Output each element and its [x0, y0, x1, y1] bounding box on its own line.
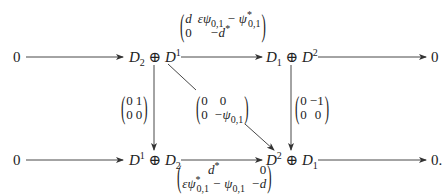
diagonal-matrix: ( 0 0 0 −ψ0,1 ) — [196, 94, 249, 122]
left-paren: ( — [177, 163, 181, 191]
top-target-node: D1 ⊕ D2 — [266, 49, 318, 65]
node-superscript: 1 — [140, 150, 145, 161]
node-symbol: D — [266, 49, 277, 65]
matrix-cell: 0 — [126, 94, 133, 108]
node-subscript: 2 — [140, 57, 145, 68]
bottom-source-node: D1 ⊕ D2 — [129, 152, 181, 168]
right-paren: ) — [143, 94, 147, 122]
matrix-cell: 0 — [201, 94, 208, 108]
node-symbol: D — [165, 152, 176, 168]
matrix-cell: 0 — [126, 108, 133, 122]
node-symbol: D — [302, 152, 313, 168]
node-symbol: D — [129, 49, 140, 65]
matrix-cell: −d* — [198, 26, 261, 40]
node-symbol: D — [165, 49, 176, 65]
top-source-node: D2 ⊕ D1 — [129, 49, 181, 65]
node-subscript: 1 — [313, 160, 318, 171]
matrix-cell: 1 — [136, 94, 143, 108]
node-subscript: 1 — [277, 57, 282, 68]
matrix-cell: 0 — [310, 108, 324, 122]
bottom-left-zero: 0 — [13, 152, 21, 168]
right-vertical-matrix: ( 0 −1 0 0 ) — [295, 94, 329, 122]
matrix-cell: 0 — [300, 94, 307, 108]
bottom-target-node: D2 ⊕ D1 — [266, 152, 318, 168]
right-paren: ) — [325, 94, 329, 122]
top-map-matrix: ( d εψ0,1 − ψ*0,1 0 −d* ) — [180, 12, 266, 40]
matrix-cell: 0 — [251, 163, 266, 177]
right-paren: ) — [261, 12, 265, 40]
matrix-cell: 0 — [201, 108, 208, 122]
matrix-cell: 0 — [214, 94, 243, 108]
left-paren: ( — [121, 94, 125, 122]
node-symbol: D — [302, 49, 313, 65]
matrix-cell: −d — [251, 177, 266, 191]
direct-sum-symbol: ⊕ — [149, 152, 162, 168]
left-paren: ( — [196, 94, 200, 122]
node-superscript: 2 — [277, 150, 282, 161]
matrix-cell: 0 — [300, 108, 307, 122]
matrix-cell: −1 — [310, 94, 324, 108]
matrix-cell: 0 — [185, 26, 192, 40]
direct-sum-symbol: ⊕ — [286, 49, 299, 65]
direct-sum-symbol: ⊕ — [149, 49, 162, 65]
top-left-zero: 0 — [13, 49, 21, 65]
matrix-cell: 0 — [136, 108, 143, 122]
left-vertical-matrix: ( 0 1 0 0 ) — [121, 94, 148, 122]
bottom-map-matrix: ( d* 0 εψ*0,1 − ψ0,1 −d ) — [177, 163, 272, 191]
matrix-cell: −ψ0,1 — [214, 108, 243, 122]
arrow-diagonal-lower — [245, 124, 274, 150]
node-superscript: 1 — [176, 47, 181, 58]
bottom-right-zero: 0. — [431, 152, 442, 168]
right-paren: ) — [244, 94, 248, 122]
direct-sum-symbol: ⊕ — [286, 152, 299, 168]
node-superscript: 2 — [313, 47, 318, 58]
matrix-cell: d* — [182, 163, 245, 177]
left-paren: ( — [180, 12, 184, 40]
matrix-cell: d — [185, 12, 192, 26]
left-paren: ( — [295, 94, 299, 122]
top-right-zero: 0 — [431, 49, 439, 65]
right-paren: ) — [267, 163, 271, 191]
arrow-diagonal-upper — [168, 64, 196, 90]
matrix-cell: εψ*0,1 − ψ0,1 — [182, 177, 245, 191]
node-symbol: D — [129, 152, 140, 168]
